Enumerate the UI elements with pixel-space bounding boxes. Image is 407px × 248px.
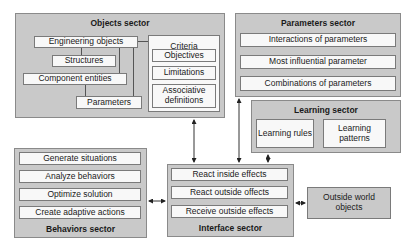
arrows-layer	[0, 0, 407, 248]
